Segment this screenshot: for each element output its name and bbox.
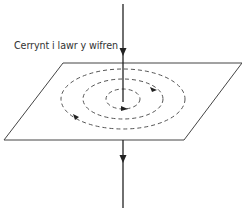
current-arrow-upper-icon	[120, 48, 127, 56]
current-arrow-lower-icon	[120, 155, 127, 163]
magnetic-field-diagram	[0, 0, 242, 211]
field-arrow-outer-icon	[73, 114, 79, 120]
field-arrow-middle-icon	[150, 87, 157, 92]
current-label: Cerrynt i lawr y wifren	[14, 40, 118, 51]
